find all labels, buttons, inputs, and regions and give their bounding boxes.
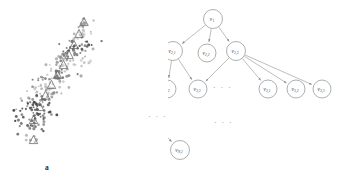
scatter-point <box>72 45 75 48</box>
scatter-point <box>59 59 62 62</box>
scatter-point <box>26 105 29 108</box>
scatter-point <box>19 125 21 127</box>
tree-node[interactable]: v2,1 <box>168 42 183 61</box>
tree-node[interactable]: v1 <box>204 10 223 29</box>
scatter-point <box>50 113 53 116</box>
scatter-point <box>48 78 51 81</box>
scatter-point <box>25 108 27 110</box>
scatter-point <box>66 55 69 58</box>
scatter-point <box>37 77 39 79</box>
scatter-point <box>81 43 83 45</box>
tree-edge <box>244 56 286 83</box>
scatter-point <box>100 40 102 42</box>
scatter-point <box>19 110 21 112</box>
scatter-point <box>21 108 23 110</box>
scatter-point <box>85 41 87 43</box>
tree-edge <box>209 29 211 42</box>
tree-node[interactable]: v2,3 <box>227 42 246 61</box>
tree-node[interactable]: v3,1 <box>259 80 277 98</box>
point-cluster <box>25 134 38 143</box>
scatter-point <box>17 119 20 122</box>
scatter-point <box>61 57 63 59</box>
scatter-point <box>72 59 75 62</box>
scatter-point <box>40 85 42 87</box>
scatter-point <box>55 113 58 116</box>
scatter-point <box>66 47 68 49</box>
scatter-point <box>62 64 65 67</box>
scatter-point <box>28 118 30 120</box>
scatter-point <box>31 85 34 88</box>
scatter-point <box>42 77 44 79</box>
scatter-point <box>39 113 41 115</box>
scatter-point <box>33 122 36 125</box>
scatter-point <box>40 88 42 90</box>
scatter-point <box>42 130 44 132</box>
scatter-point <box>15 115 18 118</box>
tree-edge <box>219 27 229 41</box>
scatter-point <box>62 50 64 52</box>
tree-edge <box>168 127 172 141</box>
scatter-point <box>42 120 45 123</box>
scatter-point <box>59 82 61 84</box>
scatter-point <box>20 113 23 116</box>
scatter-point <box>55 57 58 60</box>
tree-node[interactable]: v3,2 <box>287 80 305 98</box>
scatter-plot <box>0 0 168 184</box>
scatter-point <box>61 53 64 56</box>
scatter-point <box>35 126 37 128</box>
scatter-point <box>38 85 40 87</box>
scatter-point <box>29 101 31 103</box>
node-label-subscript: 1 <box>212 19 214 23</box>
figure-container: a v1v2,1v2,2v2,3v3,1v3,2v3,3v3,1v3,2v3,3… <box>0 0 337 184</box>
point-cluster <box>77 17 94 28</box>
scatter-point <box>84 50 86 52</box>
tree-node[interactable]: v2,2 <box>198 44 216 62</box>
scatter-point <box>25 134 28 137</box>
scatter-point <box>51 92 54 95</box>
scatter-point <box>35 94 38 97</box>
scatter-point <box>80 65 83 68</box>
scatter-points-group <box>12 17 102 143</box>
scatter-point <box>33 87 36 90</box>
scatter-point <box>31 103 34 106</box>
tree-node[interactable]: v3,3 <box>189 80 207 98</box>
scatter-point <box>30 124 33 127</box>
scatter-point <box>36 90 39 93</box>
scatter-point <box>27 103 29 105</box>
tree-node[interactable]: vN,2 <box>171 141 190 160</box>
scatter-point <box>37 79 39 81</box>
scatter-point <box>55 64 57 66</box>
scatter-point <box>51 77 53 79</box>
scatter-point <box>48 111 50 113</box>
scatter-point <box>90 31 92 33</box>
scatter-point <box>42 117 44 119</box>
panel-b-tree: v1v2,1v2,2v2,3v3,1v3,2v3,3v3,1v3,2v3,3vN… <box>168 0 337 184</box>
scatter-point <box>84 55 86 57</box>
scatter-point <box>62 80 65 83</box>
tree-node[interactable]: v3,2 <box>168 80 176 98</box>
scatter-point <box>12 109 15 112</box>
scatter-point <box>67 74 70 77</box>
scatter-point <box>83 61 86 64</box>
scatter-point <box>84 23 87 26</box>
scatter-point <box>32 112 34 114</box>
scatter-point <box>91 44 93 46</box>
scatter-point <box>86 45 89 48</box>
scatter-point <box>56 61 59 64</box>
scatter-point <box>44 83 47 86</box>
scatter-point <box>25 139 28 142</box>
tree-node[interactable]: v3,3 <box>313 80 331 98</box>
scatter-point <box>92 47 95 50</box>
scatter-point <box>15 108 17 110</box>
tree-edge <box>179 59 192 79</box>
ellipsis-row3-gap: · · · <box>213 84 232 92</box>
scatter-point <box>68 40 70 42</box>
tree-diagram: v1v2,1v2,2v2,3v3,1v3,2v3,3v3,1v3,2v3,3vN… <box>168 0 337 184</box>
tree-nodes-group: v1v2,1v2,2v2,3v3,1v3,2v3,3v3,1v3,2v3,3vN… <box>168 10 331 160</box>
scatter-point <box>26 124 29 127</box>
scatter-point <box>75 53 78 56</box>
scatter-point <box>83 31 85 33</box>
tree-edge <box>169 61 172 78</box>
scatter-point <box>43 113 45 115</box>
scatter-point <box>42 123 45 126</box>
